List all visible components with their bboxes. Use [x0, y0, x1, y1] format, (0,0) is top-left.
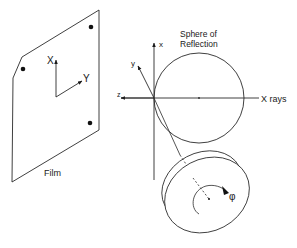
- film-y-axis-label: Y: [83, 73, 90, 84]
- crystal-y-label: y: [131, 59, 135, 68]
- disc-front-face: [151, 143, 263, 248]
- rotation-axis-line: [154, 98, 180, 155]
- crystal-x-label: x: [159, 40, 163, 49]
- beam-label: X rays: [261, 94, 287, 104]
- diffraction-spot: [89, 25, 94, 30]
- crystal-z-label: z: [117, 91, 121, 98]
- film-plane: X Y Film: [12, 10, 99, 182]
- ewald-sphere-diagram: X Y Film x y z Sphere of Reflection X ra…: [0, 0, 297, 248]
- diffraction-spot: [21, 67, 26, 72]
- crystal-y-axis-arrow: [138, 66, 154, 98]
- crystal-axes: x y z: [117, 40, 163, 180]
- sphere-label-line2: Reflection: [180, 39, 218, 49]
- film-y-axis-arrow: [56, 81, 82, 97]
- sphere-of-reflection: Sphere of Reflection: [154, 29, 244, 143]
- goniometer-disc: φ: [149, 137, 262, 247]
- film-outline: [12, 10, 99, 182]
- film-x-axis-label: X: [47, 55, 54, 66]
- sphere-label-line1: Sphere of: [180, 29, 217, 39]
- disc-center: [208, 198, 210, 200]
- xray-beam: X rays: [121, 94, 287, 104]
- phi-label: φ: [229, 191, 236, 202]
- diffraction-spot: [88, 121, 93, 126]
- film-label: Film: [44, 168, 61, 178]
